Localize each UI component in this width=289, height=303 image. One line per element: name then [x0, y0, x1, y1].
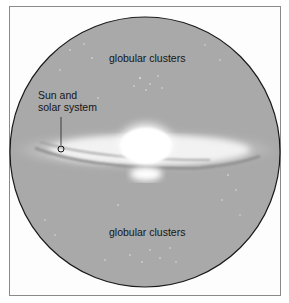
label-sun-line2: solar system	[38, 101, 97, 113]
label-sun-line1: Sun and	[38, 89, 77, 101]
galaxy-diagram	[0, 0, 289, 303]
label-bottom-globular-clusters: globular clusters	[109, 226, 185, 238]
label-top-globular-clusters: globular clusters	[109, 52, 185, 64]
